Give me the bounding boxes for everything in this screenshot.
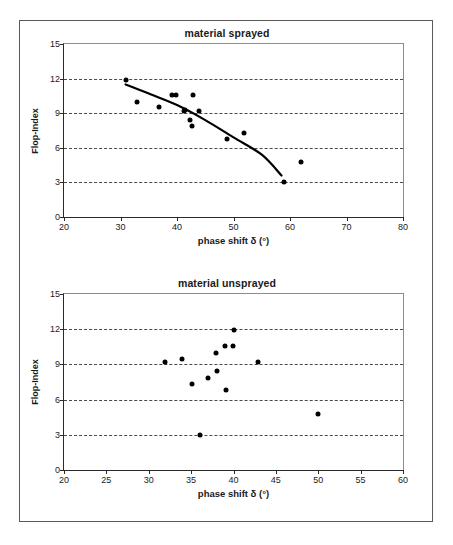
data-point <box>223 343 228 348</box>
xtick-label-50: 50 <box>313 475 323 485</box>
ytick-label-12: 12 <box>38 324 60 334</box>
xtick-label-30: 30 <box>144 475 154 485</box>
plot-area-sprayed: 0369121520304050607080phase shift δ (°)F… <box>63 43 404 218</box>
chart-title-unsprayed: material unsprayed <box>20 277 434 289</box>
chart-title-sprayed: material sprayed <box>20 27 434 39</box>
xtick-mark-80 <box>403 217 404 221</box>
xtick-label-40: 40 <box>172 222 182 232</box>
xtick-mark-50 <box>318 470 319 474</box>
plot-area-unsprayed: 03691215202530354045505560phase shift δ … <box>63 293 404 471</box>
xtick-label-20: 20 <box>59 475 69 485</box>
xtick-mark-25 <box>106 470 107 474</box>
y-axis-title: Flop-Index <box>30 61 40 201</box>
data-point <box>197 432 202 437</box>
ytick-label-6: 6 <box>38 395 60 405</box>
xtick-mark-45 <box>276 470 277 474</box>
xtick-mark-20 <box>64 217 65 221</box>
xtick-mark-70 <box>347 217 348 221</box>
data-point <box>230 344 235 349</box>
xtick-label-60: 60 <box>285 222 295 232</box>
chart-panel-material-unsprayed: material unsprayed 036912152025303540455… <box>20 273 434 522</box>
gridline-y-6 <box>64 400 403 401</box>
ytick-label-9: 9 <box>38 359 60 369</box>
trend-curve <box>64 44 403 217</box>
data-point <box>223 388 228 393</box>
data-point <box>316 412 321 417</box>
ytick-label-9: 9 <box>38 108 60 118</box>
xtick-mark-35 <box>191 470 192 474</box>
xtick-mark-55 <box>361 470 362 474</box>
chart-panel-material-sprayed: material sprayed 0369121520304050607080p… <box>20 21 434 273</box>
data-point <box>162 360 167 365</box>
ytick-label-0: 0 <box>38 212 60 222</box>
xtick-label-55: 55 <box>356 475 366 485</box>
ytick-mark-12 <box>60 329 64 330</box>
xtick-label-50: 50 <box>228 222 238 232</box>
data-point <box>206 375 211 380</box>
xtick-label-30: 30 <box>115 222 125 232</box>
gridline-y-3 <box>64 435 403 436</box>
xtick-mark-40 <box>234 470 235 474</box>
data-point <box>189 381 194 386</box>
xtick-mark-30 <box>149 470 150 474</box>
gridline-y-9 <box>64 364 403 365</box>
ytick-label-0: 0 <box>38 465 60 475</box>
ytick-label-15: 15 <box>38 39 60 49</box>
data-point <box>231 328 236 333</box>
ytick-label-15: 15 <box>38 289 60 299</box>
xtick-label-45: 45 <box>271 475 281 485</box>
ytick-label-3: 3 <box>38 430 60 440</box>
ytick-label-6: 6 <box>38 143 60 153</box>
xtick-mark-40 <box>177 217 178 221</box>
xtick-label-70: 70 <box>341 222 351 232</box>
xtick-label-60: 60 <box>398 475 408 485</box>
xtick-mark-60 <box>403 470 404 474</box>
y-axis-title: Flop-Index <box>30 312 40 452</box>
xtick-label-40: 40 <box>228 475 238 485</box>
xtick-mark-60 <box>290 217 291 221</box>
xtick-mark-30 <box>121 217 122 221</box>
x-axis-title: phase shift δ (°) <box>64 235 403 246</box>
ytick-mark-6 <box>60 400 64 401</box>
xtick-label-35: 35 <box>186 475 196 485</box>
xtick-mark-20 <box>64 470 65 474</box>
ytick-mark-9 <box>60 364 64 365</box>
xtick-label-20: 20 <box>59 222 69 232</box>
data-point <box>213 351 218 356</box>
ytick-mark-15 <box>60 294 64 295</box>
ytick-mark-3 <box>60 435 64 436</box>
data-point <box>215 369 220 374</box>
ytick-label-3: 3 <box>38 177 60 187</box>
figure-frame: material sprayed 0369121520304050607080p… <box>19 20 433 522</box>
data-point <box>179 356 184 361</box>
ytick-label-12: 12 <box>38 74 60 84</box>
xtick-mark-50 <box>234 217 235 221</box>
data-point <box>256 360 261 365</box>
x-axis-title: phase shift δ (°) <box>64 488 403 499</box>
xtick-label-80: 80 <box>398 222 408 232</box>
xtick-label-25: 25 <box>101 475 111 485</box>
